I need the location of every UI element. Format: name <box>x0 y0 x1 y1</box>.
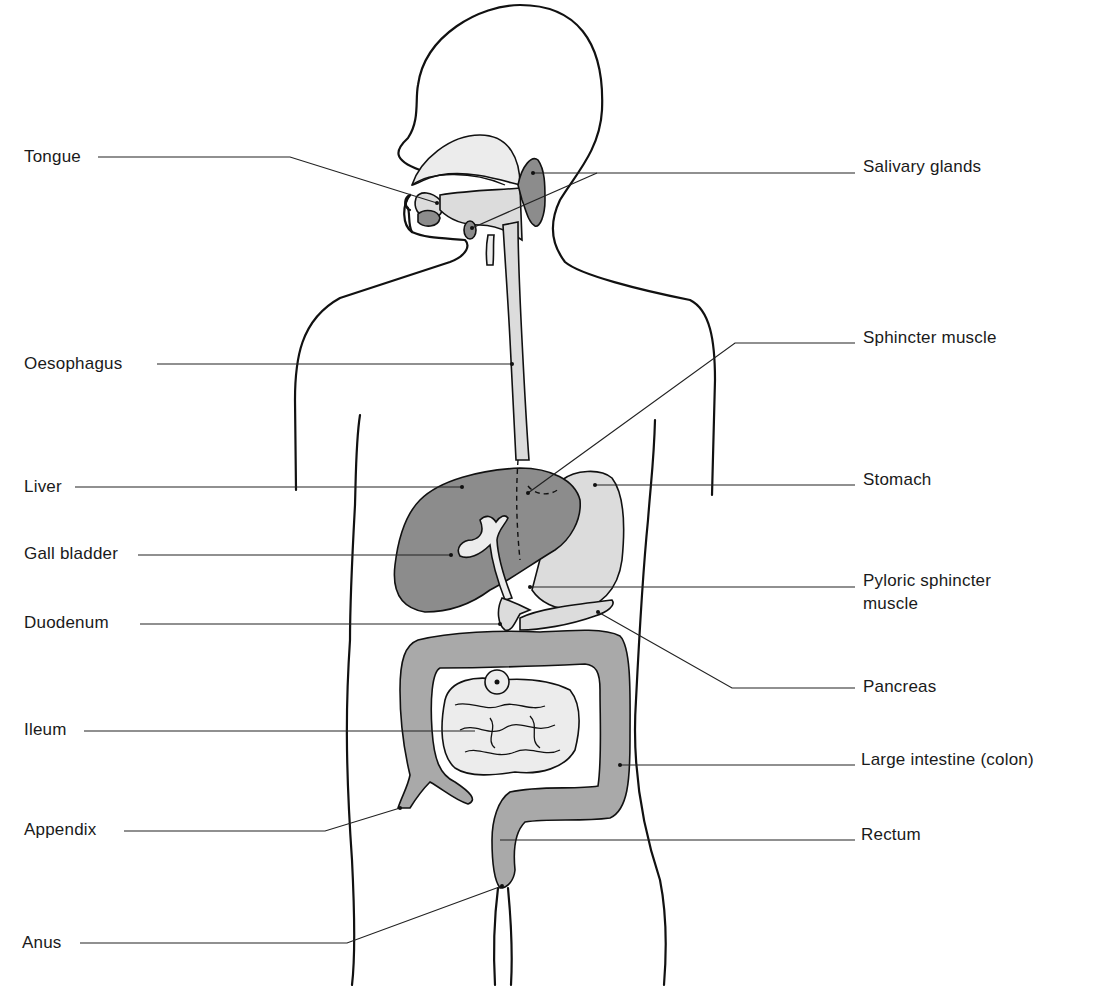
label-pancreas: Pancreas <box>863 676 936 697</box>
label-gall-bladder: Gall bladder <box>24 543 118 564</box>
label-rectum: Rectum <box>861 824 921 845</box>
label-large-intestine: Large intestine (colon) <box>861 749 1034 770</box>
label-pyloric-sphincter-line2: muscle <box>863 593 918 614</box>
body-illustration <box>0 0 1101 1005</box>
label-liver: Liver <box>24 476 62 497</box>
label-anus: Anus <box>22 932 62 953</box>
label-pyloric-sphincter: Pyloric sphincter <box>863 570 991 591</box>
label-tongue: Tongue <box>24 146 81 167</box>
label-stomach: Stomach <box>863 469 932 490</box>
salivary-gland <box>518 159 545 226</box>
digestive-system-diagram: Tongue Oesophagus Liver Gall bladder Duo… <box>0 0 1101 1005</box>
label-oesophagus: Oesophagus <box>24 353 122 374</box>
small-intestine <box>442 670 579 775</box>
label-salivary-glands: Salivary glands <box>863 156 981 177</box>
label-appendix: Appendix <box>24 819 97 840</box>
label-sphincter-muscle: Sphincter muscle <box>863 327 997 348</box>
label-duodenum: Duodenum <box>24 612 109 633</box>
label-ileum: Ileum <box>24 719 67 740</box>
oesophagus-tube <box>503 222 529 460</box>
